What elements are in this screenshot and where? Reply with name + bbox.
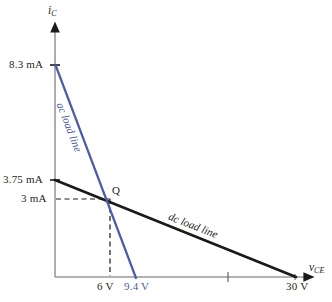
y-axis-label-sub: C	[51, 9, 56, 18]
plot-canvas	[0, 0, 332, 302]
dc-load-line	[55, 180, 296, 277]
x-tick-label-6v: 6 V	[97, 281, 114, 292]
x-axis-label-sub: CE	[314, 266, 324, 275]
x-tick-label-30v: 30 V	[286, 281, 308, 292]
y-tick-label-3p75ma: 3.75 mA	[3, 174, 43, 185]
ac-load-line	[56, 65, 137, 278]
x-axis-label: vCE	[309, 262, 324, 274]
q-point-label: Q	[112, 185, 120, 196]
load-line-figure: iC vCE 8.3 mA 3.75 mA 3 mA 6 V 9.4 V 30 …	[0, 0, 332, 302]
y-tick-label-3ma: 3 mA	[21, 193, 47, 204]
y-tick-label-8p3ma: 8.3 mA	[9, 59, 43, 70]
x-tick-label-9p4v: 9.4 V	[124, 281, 149, 292]
y-axis-label: iC	[48, 5, 57, 17]
